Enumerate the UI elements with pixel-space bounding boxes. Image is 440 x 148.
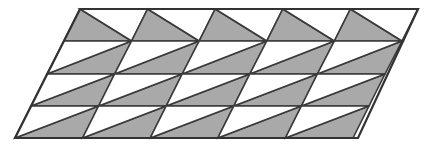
tessellation-figure: Parallelogram tessellation of shaded and… [0, 0, 440, 148]
tile-layer [15, 9, 418, 138]
tessellation-svg: Parallelogram tessellation of shaded and… [0, 0, 440, 148]
